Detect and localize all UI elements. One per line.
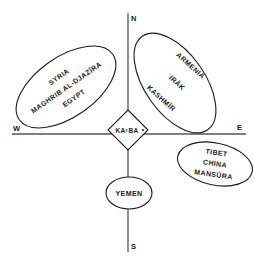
kaaba-dot: [142, 129, 144, 131]
region-label: TIBET: [205, 148, 228, 158]
region-label: MANSŪRA: [194, 168, 233, 180]
region-south: YEMEN: [106, 177, 152, 209]
region-southeast: TIBET CHINA MANSŪRA: [173, 136, 254, 193]
west-label: W: [13, 124, 21, 133]
region-label: KASHMĪR: [146, 84, 177, 113]
region-label: CHINA: [203, 158, 228, 168]
south-label: S: [131, 242, 136, 251]
qibla-direction-diagram: N S W E SYRIA MAGHRIB AL-DJAZĪRA EGYPT A…: [0, 0, 254, 265]
kaaba-label: KAᶜBA: [115, 127, 138, 134]
east-label: E: [237, 123, 242, 132]
kaaba-center: KAᶜBA: [108, 110, 148, 150]
region-label: YEMEN: [116, 190, 143, 197]
region-label: ʿIRĀK: [166, 72, 187, 92]
north-label: N: [131, 14, 136, 23]
